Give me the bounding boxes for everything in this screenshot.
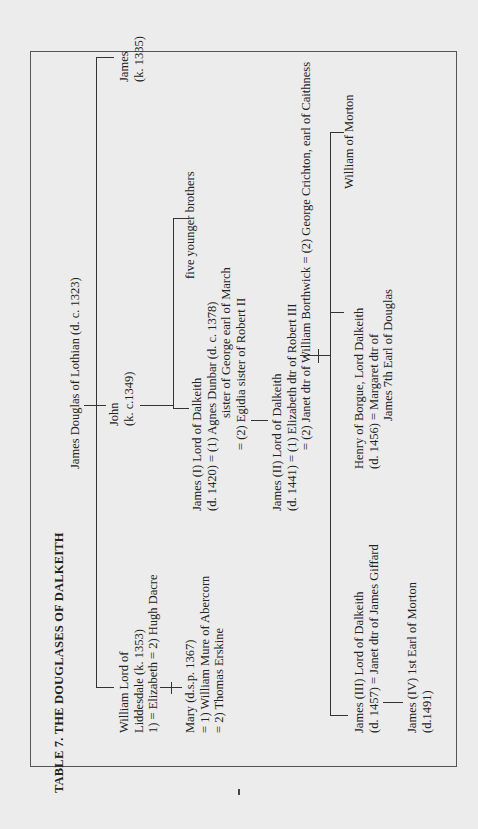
gen1-james-tick [96, 57, 114, 58]
mary: Mary (d.s.p. 1367) = 1) William Mure of … [183, 576, 227, 733]
gen1-john-tick [96, 405, 106, 406]
text-line: = 1) William Mure of Abercorn [198, 576, 213, 733]
gen1-william-tick [96, 687, 114, 688]
john: John (k. c.1349) [107, 372, 136, 427]
root-drop-line [84, 405, 96, 406]
text-line: = (2) Janet dtr of William Borthwick = (… [299, 62, 314, 511]
text-line: Henry of Borgue, Lord Dalkeith [352, 289, 367, 469]
text-line: (d. 1457) = Janet dtr of James Giffard [367, 544, 382, 733]
james-k1335: James (k. 1335) [117, 36, 146, 82]
text-line: John [107, 372, 122, 427]
rotated-page: TABLE 7. THE DOUGLASES OF DALKEITH James… [0, 0, 478, 829]
text-line: (d. 1420) = (1) Agnes Dunbar (d. c. 1378… [205, 267, 220, 511]
text-line: James (III) Lord of Dalkeith [352, 544, 367, 733]
text-line: Mary (d.s.p. 1367) [183, 576, 198, 733]
james-4: James (IV) 1st Earl of Morton (d.1491) [405, 582, 434, 733]
gen2-bar [173, 218, 174, 409]
table-title: TABLE 7. THE DOUGLASES OF DALKEITH [52, 532, 67, 793]
text-line: sister of George earl of March [219, 267, 234, 511]
james-2: James (II) Lord of Dalkeith (d. 1441) = … [270, 62, 314, 511]
text-line: James [117, 36, 132, 82]
text-line: = 2) Thomas Erskine [212, 576, 227, 733]
text-line: (k. 1335) [132, 36, 147, 82]
william-of-morton: William of Morton [342, 94, 357, 189]
henry-of-borgue: Henry of Borgue, Lord Dalkeith (d. 1456)… [352, 289, 396, 469]
text-line: = (2) Egidia sister of Robert II [234, 267, 249, 511]
text-line: (d.1491) [420, 582, 435, 733]
text-line: Liddesdale (k. 1353) [132, 575, 147, 733]
gen4-bar [330, 132, 331, 716]
text-line: (d. 1441) = (1) Elizabeth dtr of Robert … [285, 62, 300, 511]
james1-to-james2-line [251, 420, 268, 421]
text-line: (d. 1456) = Margaret dtr of [367, 289, 382, 469]
james3-to-james4-line [383, 702, 403, 703]
text-line: (k. c.1349) [122, 372, 137, 427]
text-line: James (II) Lord of Dalkeith [270, 62, 285, 511]
gen4-james3-tick [330, 715, 348, 716]
william-liddesdale: William Lord of Liddesdale (k. 1353) 1) … [117, 575, 161, 733]
text-line: James (IV) 1st Earl of Morton [405, 582, 420, 733]
text-line: James 7th Earl of Douglas [381, 289, 396, 469]
james-1: James (I) Lord of Dalkeith (d. 1420) = (… [190, 267, 248, 511]
five-younger-brothers: five younger brothers [183, 171, 198, 279]
text-line: William Lord of [117, 575, 132, 733]
gen2-james1-tick [173, 408, 189, 409]
william-marriage-tick [171, 682, 172, 694]
gen1-bar [96, 57, 97, 688]
james2-drop-line [300, 355, 330, 356]
page-mark [238, 789, 240, 795]
root-ancestor: James Douglas of Lothian (d. c. 1323) [68, 277, 83, 469]
james2-marriage-tick [318, 349, 319, 363]
james-3: James (III) Lord of Dalkeith (d. 1457) =… [352, 544, 381, 733]
gen4-henry-tick [330, 312, 344, 313]
text-line: 1) = Elizabeth = 2) Hugh Dacre [146, 575, 161, 733]
john-drop-line [140, 405, 173, 406]
text-line: James (I) Lord of Dalkeith [190, 267, 205, 511]
